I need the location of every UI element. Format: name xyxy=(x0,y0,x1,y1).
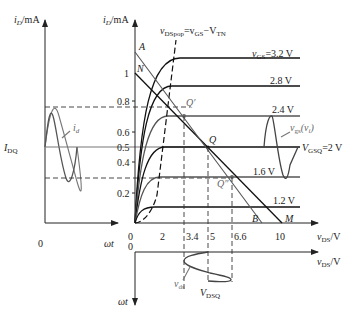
left-origin-label: 0 xyxy=(38,238,43,249)
y-tick-0.5: 0.5 xyxy=(117,142,130,153)
y-ticks: 1 0.8 0.6 0.5 0.4 0.2 xyxy=(117,68,135,199)
main-x-axis-label: vDS/V xyxy=(317,231,341,244)
vdsq-label: VDSQ xyxy=(200,287,220,300)
label-vgsq: VGSQ=2 V xyxy=(302,142,343,155)
y-tick-1: 1 xyxy=(124,68,129,79)
point-Q-label: Q xyxy=(209,134,217,145)
bottom-origin-label: 0 xyxy=(128,241,133,252)
label-vgs-3.2: vGS=3.2 V xyxy=(252,48,294,61)
x-tick-5: 5 xyxy=(210,231,215,242)
point-A-label: A xyxy=(138,41,146,52)
label-vgs-1.2: 1.2 V xyxy=(273,195,296,206)
left-x-axis-label: ωt xyxy=(104,238,114,249)
point-M-label: M xyxy=(284,213,294,224)
diagram-canvas: iD/mA 0 ωt id IDQ iD/mA vDS/V 1 0.8 0.6 … xyxy=(0,0,361,318)
x-ticks: 0 2 3.4 5 6.6 10 xyxy=(128,231,285,242)
bottom-y-axis-label: ωt xyxy=(118,296,128,307)
bottom-plot: 0 vDS/V ωt vds VDSQ xyxy=(118,241,341,307)
x-tick-2: 2 xyxy=(160,231,165,242)
bottom-x-axis-label: vDS/V xyxy=(317,256,341,269)
vgs-leader xyxy=(281,132,290,137)
y-tick-0.2: 0.2 xyxy=(117,188,130,199)
vds-signal xyxy=(184,252,231,282)
y-tick-0.6: 0.6 xyxy=(117,127,130,138)
label-vgs-2.4: 2.4 V xyxy=(272,104,295,115)
y-tick-0.8: 0.8 xyxy=(117,96,130,107)
label-vgs-2.8: 2.8 V xyxy=(270,75,293,86)
point-B-label: B xyxy=(252,213,258,224)
idq-label: IDQ xyxy=(3,142,17,155)
main-y-axis-label: iD/mA xyxy=(103,14,129,27)
y-tick-0.4: 0.4 xyxy=(117,157,130,168)
boundary-label: vDSpop=vGS−VTN xyxy=(160,25,226,38)
x-tick-3.4: 3.4 xyxy=(186,231,199,242)
left-y-axis-label: iD/mA xyxy=(14,14,40,27)
ac-load-line-AB xyxy=(135,52,262,223)
vgs-label: vgs(vi) xyxy=(290,122,314,135)
main-plot: iD/mA vDS/V 1 0.8 0.6 0.5 0.4 0.2 0 2 3.… xyxy=(103,14,343,290)
point-Q-dprime-label: Q″ xyxy=(217,178,229,189)
x-tick-10: 10 xyxy=(275,231,285,242)
point-N-label: N xyxy=(136,63,145,74)
id-label: id xyxy=(73,122,80,135)
point-Q-prime-label: Q′ xyxy=(186,97,196,108)
label-vgs-1.6: 1.6 V xyxy=(253,166,276,177)
id-sine-wave xyxy=(45,108,81,191)
left-plot: iD/mA 0 ωt id IDQ xyxy=(3,14,118,249)
curve-vgs-1.2 xyxy=(135,207,300,223)
x-tick-6.6: 6.6 xyxy=(234,231,247,242)
